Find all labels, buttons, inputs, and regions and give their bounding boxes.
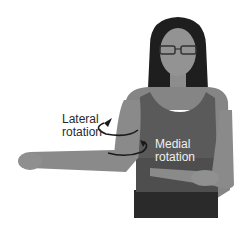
person-illustration xyxy=(0,0,248,227)
medial-label-line2: rotation xyxy=(155,151,195,164)
lateral-rotation-label: Lateral rotation xyxy=(62,113,102,139)
anatomy-photo: Lateral rotation Medial rotation xyxy=(0,0,248,227)
lateral-label-line2: rotation xyxy=(62,126,102,139)
medial-rotation-label: Medial rotation xyxy=(155,138,195,164)
